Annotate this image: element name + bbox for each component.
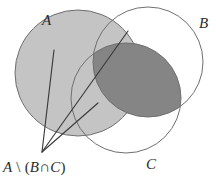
set-label-a: A <box>42 13 51 28</box>
venn-diagram <box>0 0 216 184</box>
expr-set-b: B <box>30 159 39 175</box>
set-label-c: C <box>146 157 156 172</box>
expression-label: A \ (B∩C) <box>3 160 66 175</box>
expr-close-paren: ) <box>61 159 66 175</box>
expr-setminus: \ <box>12 159 24 175</box>
expr-set-c: C <box>50 159 60 175</box>
set-label-b: B <box>199 16 208 31</box>
intersection-icon: ∩ <box>39 159 50 175</box>
expr-set-a: A <box>3 159 12 175</box>
